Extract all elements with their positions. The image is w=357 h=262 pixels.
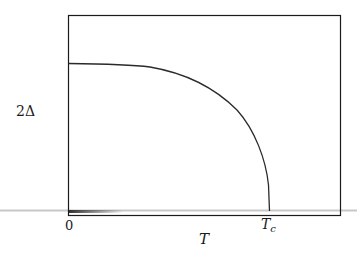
gap-curve xyxy=(69,64,270,212)
x-tick-tc-main: T xyxy=(261,216,270,232)
plot-area xyxy=(0,0,357,262)
gap-vs-temperature-figure: 2Δ T 0 Tc xyxy=(0,0,357,262)
x-tick-critical-temperature: Tc xyxy=(261,217,276,234)
x-tick-zero: 0 xyxy=(65,219,73,232)
origin-axis-shading xyxy=(68,210,123,213)
x-axis-label: T xyxy=(199,232,209,247)
x-tick-tc-subscript: c xyxy=(270,223,276,234)
plot-frame xyxy=(69,16,341,216)
y-axis-label: 2Δ xyxy=(16,104,35,118)
